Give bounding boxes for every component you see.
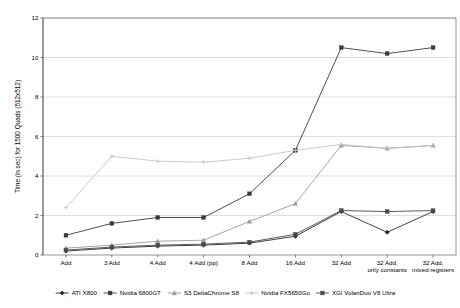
y-axis-title-text: Time (in sec) for 1500 Quads (512x512)	[14, 80, 22, 193]
x-tick-label: mixed registers	[412, 266, 454, 273]
legend-item-nvidia-fx5650go[interactable]: Nvidia FX5650Go	[245, 289, 310, 296]
data-point	[202, 216, 206, 220]
legend-label: Nvidia FX5650Go	[261, 289, 310, 296]
y-tick-label: 10	[32, 54, 39, 61]
legend-swatch-marker	[60, 291, 64, 295]
chart-container: 024681012Time (in sec) for 1500 Quads (5…	[0, 0, 460, 308]
legend-label: S3 DeltaChrome S8	[184, 289, 240, 296]
y-tick-label: 4	[35, 172, 39, 179]
data-point	[156, 159, 160, 163]
data-point	[431, 46, 435, 50]
series-nvidia-6800gt	[64, 46, 435, 237]
legend-item-ati-x800[interactable]: ATI X800	[56, 289, 98, 296]
data-point	[202, 242, 206, 246]
x-tick-label: 16 Add	[286, 259, 306, 266]
data-point	[385, 230, 389, 234]
legend-swatch-marker	[108, 291, 112, 295]
y-tick-label: 0	[35, 251, 39, 258]
y-axis-title: Time (in sec) for 1500 Quads (512x512)	[14, 80, 22, 193]
y-tick-label: 6	[35, 133, 39, 140]
legend: ATI X800Nvidia 6800GTS3 DeltaChrome S8Nv…	[56, 289, 396, 296]
legend-swatch-marker	[250, 291, 254, 295]
x-tick-label: 3 Add	[104, 259, 120, 266]
data-point	[339, 209, 343, 213]
legend-item-xgi-volariduo-v8-ultra[interactable]: XGI VolariDuo V8 Ultra	[316, 289, 396, 296]
x-tick-label: only constants	[367, 266, 407, 273]
y-tick-label: 8	[35, 93, 39, 100]
y-tick-label: 2	[35, 212, 39, 219]
x-tick-label: Add	[60, 259, 72, 266]
data-point	[156, 243, 160, 247]
y-tick-label: 12	[32, 14, 39, 21]
series-line	[66, 145, 433, 248]
legend-label: ATI X800	[72, 289, 98, 296]
data-point	[64, 248, 68, 252]
x-tick-label: 8 Add	[242, 259, 258, 266]
data-point	[248, 156, 252, 160]
data-point	[156, 216, 160, 220]
data-point	[110, 222, 114, 226]
legend-label: Nvidia 6800GT	[120, 289, 161, 296]
data-point	[431, 209, 435, 213]
legend-item-nvidia-6800gt[interactable]: Nvidia 6800GT	[104, 289, 161, 296]
x-axis: Add3 Add4 Add4 Add (pp)8 Add16 Add32 Add…	[60, 255, 454, 273]
x-tick-label: 32 Add,	[377, 259, 398, 266]
data-point	[385, 210, 389, 214]
legend-item-s3-deltachrome-s8[interactable]: S3 DeltaChrome S8	[168, 289, 240, 296]
y-axis: 024681012	[32, 14, 43, 258]
x-tick-label: 32 Add	[332, 259, 352, 266]
series-line	[66, 48, 433, 236]
data-point	[339, 46, 343, 50]
gridlines	[43, 18, 456, 216]
data-point	[110, 245, 114, 249]
data-point	[64, 233, 68, 237]
line-chart: 024681012Time (in sec) for 1500 Quads (5…	[0, 0, 460, 308]
legend-label: XGI VolariDuo V8 Ultra	[332, 289, 396, 296]
data-point	[248, 240, 252, 244]
data-point	[248, 192, 252, 196]
x-tick-label: 32 Add,	[423, 259, 444, 266]
data-point	[293, 232, 297, 236]
data-point	[202, 160, 206, 164]
legend-swatch-marker	[320, 291, 324, 295]
x-tick-label: 4 Add	[150, 259, 166, 266]
x-tick-label: 4 Add (pp)	[189, 259, 218, 266]
data-point	[385, 52, 389, 56]
